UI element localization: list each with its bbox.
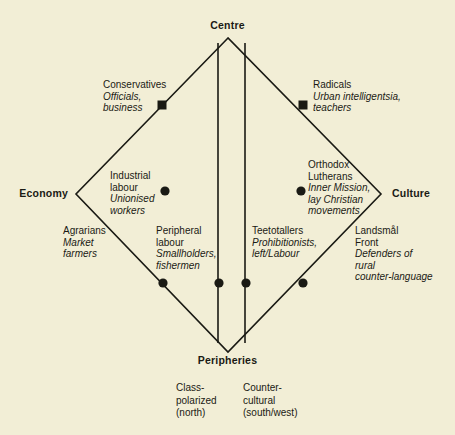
footnote-class-polarized-line-2: polarized: [176, 395, 217, 408]
node-orthodox-lutherans-desc-line-1: Inner Mission,: [308, 182, 370, 194]
marker-square-radicals: [299, 101, 308, 110]
marker-dot-industrial-labour: [160, 186, 169, 195]
node-peripheral-labour-title-line-1: Peripheral: [156, 225, 217, 237]
axis-label-peripheries: Peripheries: [0, 355, 455, 367]
footnote-counter-cultural-line-3: (south/west): [243, 407, 297, 420]
footnote-counter-cultural-line-2: cultural: [243, 395, 297, 408]
node-landsmal-front-desc-line-2: rural: [355, 260, 433, 272]
marker-dot-landsmal-front: [298, 278, 307, 287]
footnote-counter-cultural-line-1: Counter-: [243, 382, 297, 395]
marker-dot-peripheral-labour: [158, 278, 167, 287]
node-industrial-labour-title-line-2: labour: [110, 182, 154, 194]
node-landsmal-front-title-line-1: Landsmål: [355, 225, 433, 237]
node-radicals-title: Radicals: [313, 79, 401, 91]
node-orthodox-lutherans-desc-line-3: movements: [308, 205, 370, 217]
node-orthodox-lutherans-title-line-2: Lutherans: [308, 171, 370, 183]
node-industrial-labour-desc-line-2: workers: [110, 205, 154, 217]
node-peripheral-labour: Peripheral labour Smallholders, fisherme…: [156, 225, 217, 271]
node-radicals-desc-line-2: teachers: [313, 102, 401, 114]
node-conservatives-desc-line-1: Officials,: [103, 91, 166, 103]
node-teetotallers-desc-line-2: left/Labour: [252, 248, 317, 260]
node-agrarians: Agrarians Market farmers: [63, 225, 106, 260]
node-conservatives-title: Conservatives: [103, 79, 166, 91]
node-industrial-labour: Industrial labour Unionised workers: [110, 170, 154, 216]
marker-dot-class-polarized: [214, 278, 223, 287]
node-orthodox-lutherans: Orthodox Lutherans Inner Mission, lay Ch…: [308, 159, 370, 217]
node-orthodox-lutherans-desc-line-2: lay Christian: [308, 194, 370, 206]
node-agrarians-desc-line-2: farmers: [63, 248, 106, 260]
axis-label-economy: Economy: [8, 188, 68, 200]
node-peripheral-labour-title-line-2: labour: [156, 237, 217, 249]
axis-label-centre: Centre: [0, 20, 455, 32]
node-agrarians-desc-line-1: Market: [63, 237, 106, 249]
node-landsmal-front-desc-line-1: Defenders of: [355, 248, 433, 260]
footnote-class-polarized-line-3: (north): [176, 407, 217, 420]
node-peripheral-labour-desc-line-1: Smallholders,: [156, 248, 217, 260]
node-landsmal-front: Landsmål Front Defenders of rural counte…: [355, 225, 433, 283]
node-teetotallers-title: Teetotallers: [252, 225, 317, 237]
diamond-lines: [0, 0, 455, 435]
node-teetotallers-desc-line-1: Prohibitionists,: [252, 237, 317, 249]
footnote-class-polarized: Class- polarized (north): [176, 382, 217, 420]
node-landsmal-front-desc-line-3: counter-language: [355, 271, 433, 283]
marker-dot-orthodox-lutherans: [296, 186, 305, 195]
diagram-canvas: Centre Peripheries Economy Culture Conse…: [0, 0, 455, 435]
footnote-counter-cultural: Counter- cultural (south/west): [243, 382, 297, 420]
node-radicals: Radicals Urban intelligentsia, teachers: [313, 79, 401, 114]
axis-label-culture: Culture: [392, 188, 430, 200]
node-orthodox-lutherans-title-line-1: Orthodox: [308, 159, 370, 171]
node-peripheral-labour-desc-line-2: fishermen: [156, 260, 217, 272]
node-industrial-labour-title-line-1: Industrial: [110, 170, 154, 182]
footnote-class-polarized-line-1: Class-: [176, 382, 217, 395]
node-radicals-desc-line-1: Urban intelligentsia,: [313, 91, 401, 103]
node-landsmal-front-title-line-2: Front: [355, 237, 433, 249]
node-industrial-labour-desc-line-1: Unionised: [110, 193, 154, 205]
node-teetotallers: Teetotallers Prohibitionists, left/Labou…: [252, 225, 317, 260]
node-conservatives: Conservatives Officials, business: [103, 79, 166, 114]
node-agrarians-title: Agrarians: [63, 225, 106, 237]
node-conservatives-desc-line-2: business: [103, 102, 166, 114]
marker-dot-teetotallers: [241, 278, 250, 287]
